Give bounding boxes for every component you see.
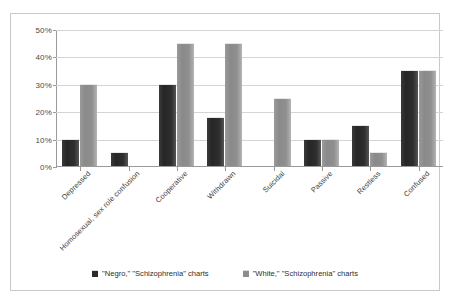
bar-group <box>104 30 152 167</box>
y-axis-tick-label: 40% <box>35 53 52 62</box>
y-axis-tick-label: 10% <box>35 135 52 144</box>
bar <box>207 117 224 167</box>
x-axis-category-label: Cooperative <box>154 169 190 205</box>
bar <box>419 70 436 167</box>
x-axis-category-label: Depressed <box>60 169 93 202</box>
bar-group <box>201 30 249 167</box>
x-axis-tick-mark <box>129 167 130 171</box>
bar <box>62 139 79 167</box>
x-axis-tick-mark <box>80 167 81 171</box>
bar-group <box>298 30 346 167</box>
x-axis-line <box>56 166 443 167</box>
x-axis-tick-mark <box>274 167 275 171</box>
legend-label-negro: "Negro," "Schizophrenia" charts <box>102 269 209 278</box>
bar <box>159 84 176 167</box>
x-axis-category-label: Passive <box>309 169 334 194</box>
x-axis-tick-mark <box>322 167 323 171</box>
light-square-swatch-icon <box>243 270 249 277</box>
x-axis-tick-mark <box>419 167 420 171</box>
x-axis-category-label: Restless <box>356 169 383 196</box>
bar-group <box>395 30 443 167</box>
chart-container: 0%10%20%30%40%50% DepressedHomosexual, s… <box>10 13 440 291</box>
y-axis-labels: 0%10%20%30%40%50% <box>11 30 52 168</box>
bar <box>177 43 194 167</box>
dark-square-swatch-icon <box>92 270 98 277</box>
y-axis-tick-label: 20% <box>35 108 52 117</box>
bar <box>274 98 291 168</box>
y-axis-tick-label: 0% <box>40 163 52 172</box>
y-axis-tick-label: 50% <box>35 26 52 35</box>
x-axis-tick-mark <box>370 167 371 171</box>
bar <box>225 43 242 167</box>
x-axis-category-label: Suicidal <box>261 169 287 195</box>
bar <box>352 125 369 167</box>
legend-label-white: "White," "Schizophrenia" charts <box>253 269 358 278</box>
bar-series-group <box>56 30 443 167</box>
y-axis-tick-label: 30% <box>35 80 52 89</box>
bar <box>304 139 321 167</box>
x-axis-tick-mark <box>225 167 226 171</box>
x-axis-category-label: Homosexual, sex role confusion <box>57 169 141 253</box>
bar <box>370 152 387 167</box>
bar <box>401 70 418 167</box>
bar <box>322 139 339 167</box>
bar-group <box>153 30 201 167</box>
bar <box>80 84 97 167</box>
x-axis-tick-mark <box>177 167 178 171</box>
y-axis-tick-mark <box>53 167 56 168</box>
chart-legend: "Negro," "Schizophrenia" charts "White,"… <box>11 269 439 278</box>
legend-item-negro: "Negro," "Schizophrenia" charts <box>92 269 209 278</box>
x-axis-category-label: Confused <box>402 169 432 199</box>
legend-item-white: "White," "Schizophrenia" charts <box>243 269 358 278</box>
bar-group <box>56 30 104 167</box>
x-axis-category-label: Withdrawn <box>206 169 238 201</box>
bar-group <box>346 30 394 167</box>
plot-area <box>56 30 443 167</box>
bar <box>111 152 128 167</box>
bar-group <box>250 30 298 167</box>
